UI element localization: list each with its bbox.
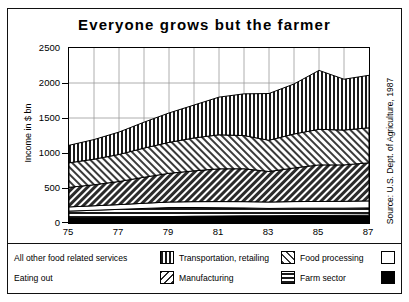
legend-label-farm-sector: Farm sector xyxy=(300,273,346,283)
legend-item-manufacturing[interactable]: Manufacturing xyxy=(160,269,233,286)
y-tick-2500: 2500 xyxy=(26,42,60,53)
chart-figure: Everyone grows but the farmer Income in … xyxy=(0,0,409,302)
legend-swatch-diagonal-light-icon xyxy=(281,251,295,264)
legend-label-food-processing: Food processing xyxy=(300,253,364,263)
legend-swatch-eating-out[interactable] xyxy=(381,269,400,286)
legend-label-eating-out: Eating out xyxy=(14,273,53,283)
y-axis-label: Income in $ bn xyxy=(23,78,33,188)
chart-legend: All other food related services Eating o… xyxy=(14,248,395,288)
y-tick-0: 0 xyxy=(26,217,60,228)
legend-swatch-black-icon xyxy=(381,271,395,284)
legend-item-all-other-food-related-services[interactable]: All other food related services xyxy=(14,249,127,266)
legend-item-food-processing[interactable]: Food processing xyxy=(281,249,364,266)
chart-title: Everyone grows but the farmer xyxy=(0,16,409,33)
legend-label-all-other-food-related-services: All other food related services xyxy=(14,253,127,263)
y-tick-500: 500 xyxy=(26,182,60,193)
legend-swatch-diagonal-dark-icon xyxy=(160,271,174,284)
x-tick-83: 83 xyxy=(258,226,278,237)
legend-item-eating-out[interactable]: Eating out xyxy=(14,269,53,286)
y-tick-1500: 1500 xyxy=(26,112,60,123)
x-tick-81: 81 xyxy=(208,226,228,237)
legend-label-transportation-retailing: Transportation, retailing xyxy=(179,253,269,263)
source-note: Source: U.S. Dept. of Agriculture, 1987 xyxy=(385,66,395,236)
legend-swatch-white-icon xyxy=(381,251,395,264)
legend-swatch-vertical-lines-icon xyxy=(160,251,174,264)
x-tick-77: 77 xyxy=(108,226,128,237)
x-tick-75: 75 xyxy=(58,226,78,237)
plot-area xyxy=(68,47,370,224)
legend-swatch-horizontal-lines-icon xyxy=(281,271,295,284)
x-tick-79: 79 xyxy=(158,226,178,237)
legend-item-farm-sector[interactable]: Farm sector xyxy=(281,269,346,286)
y-tick-1000: 1000 xyxy=(26,147,60,158)
y-tick-2000: 2000 xyxy=(26,77,60,88)
legend-divider xyxy=(7,243,402,244)
legend-label-manufacturing: Manufacturing xyxy=(179,273,233,283)
x-tick-87: 87 xyxy=(358,226,378,237)
stacked-area-svg xyxy=(69,48,369,223)
x-tick-85: 85 xyxy=(308,226,328,237)
legend-item-transportation-retailing[interactable]: Transportation, retailing xyxy=(160,249,269,266)
legend-swatch-all-other-food-related-services[interactable] xyxy=(381,249,400,266)
